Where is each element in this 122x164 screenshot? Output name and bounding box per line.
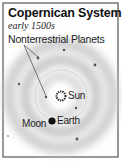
diagram-subtitle: early 1500s xyxy=(8,20,55,31)
earth-icon xyxy=(48,117,55,124)
planet-dot xyxy=(63,49,66,52)
nonterrestrial-planets-label: Nonterrestrial Planets xyxy=(8,33,105,45)
planet-dot xyxy=(18,83,20,85)
diagram-title: Copernican System xyxy=(8,6,121,20)
planet-dot xyxy=(37,57,40,60)
moon-label: Moon xyxy=(22,118,46,129)
planet-dot xyxy=(45,96,47,98)
sun-label: Sun xyxy=(68,90,85,101)
planet-dot xyxy=(94,64,97,67)
planet-dot xyxy=(7,135,9,137)
planet-dot xyxy=(75,107,77,109)
earth-label: Earth xyxy=(57,115,80,126)
planet-dot xyxy=(76,138,79,141)
sun-icon xyxy=(57,92,66,101)
